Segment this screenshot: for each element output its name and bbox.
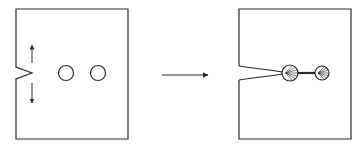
- hole-left: [59, 66, 74, 81]
- hole-right: [91, 66, 106, 81]
- void-coalescence-diagram: [0, 0, 363, 149]
- void-right-icon: [315, 66, 329, 80]
- after-panel: [239, 9, 351, 139]
- crack-flank-top: [239, 66, 282, 72]
- crack-flank-bottom: [239, 74, 282, 80]
- notched-plate-outline: [16, 9, 128, 139]
- void-left-icon: [282, 65, 298, 81]
- before-panel: [16, 9, 128, 139]
